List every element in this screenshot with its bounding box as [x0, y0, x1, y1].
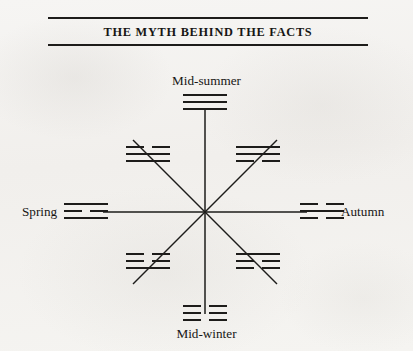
line-segment-full [126, 160, 170, 162]
trigram-line-broken [236, 260, 280, 262]
trigram-line-solid [236, 253, 280, 255]
line-segment-half [183, 312, 201, 314]
line-segment-full [126, 267, 170, 269]
line-segment-half [126, 146, 144, 148]
trigram-top [183, 94, 227, 110]
trigram-line-broken [126, 253, 170, 255]
line-segment-half [236, 267, 254, 269]
line-segment-half [209, 305, 227, 307]
trigram-line-broken [183, 312, 227, 314]
line-segment-full [183, 101, 227, 103]
trigram-line-solid [183, 108, 227, 110]
trigram-line-solid [236, 153, 280, 155]
trigram-line-broken [300, 217, 344, 219]
label-autumn: Autumn [341, 205, 384, 218]
trigram-left [64, 203, 108, 219]
trigram-line-solid [183, 101, 227, 103]
trigram-line-solid [64, 203, 108, 205]
line-segment-half [236, 160, 254, 162]
line-segment-full [236, 153, 280, 155]
line-segment-half [126, 253, 144, 255]
trigram-line-broken [183, 319, 227, 321]
trigram-line-solid [64, 217, 108, 219]
line-segment-full [300, 210, 344, 212]
label-mid-summer: Mid-summer [0, 74, 413, 87]
trigram-top-right [236, 146, 280, 162]
trigram-bottom [183, 305, 227, 321]
line-segment-half [183, 305, 201, 307]
line-segment-half [209, 319, 227, 321]
trigram-line-solid [300, 210, 344, 212]
line-segment-half [209, 312, 227, 314]
trigram-line-solid [236, 146, 280, 148]
label-spring: Spring [22, 205, 57, 218]
seasonal-wheel-diagram: Mid-summer Mid-winter Spring Autumn [0, 0, 413, 351]
trigram-line-broken [236, 267, 280, 269]
line-segment-half [152, 260, 170, 262]
line-segment-half [262, 260, 280, 262]
trigram-bottom-right [236, 253, 280, 269]
trigram-line-broken [126, 260, 170, 262]
line-segment-half [262, 267, 280, 269]
line-segment-half [236, 260, 254, 262]
line-segment-half [90, 210, 108, 212]
trigram-line-solid [183, 94, 227, 96]
line-segment-half [300, 217, 318, 219]
line-segment-half [262, 160, 280, 162]
line-segment-full [183, 94, 227, 96]
line-segment-full [183, 108, 227, 110]
line-segment-half [126, 260, 144, 262]
trigram-line-solid [126, 160, 170, 162]
trigram-bottom-left [126, 253, 170, 269]
line-segment-half [183, 319, 201, 321]
trigram-top-left [126, 146, 170, 162]
trigram-line-broken [183, 305, 227, 307]
line-segment-full [64, 203, 108, 205]
line-segment-full [64, 217, 108, 219]
trigram-line-broken [64, 210, 108, 212]
line-segment-full [236, 146, 280, 148]
trigram-line-broken [236, 160, 280, 162]
trigram-line-solid [126, 153, 170, 155]
trigram-line-solid [126, 267, 170, 269]
line-segment-half [152, 253, 170, 255]
line-segment-half [326, 217, 344, 219]
wheel-spokes [0, 0, 413, 351]
line-segment-half [300, 203, 318, 205]
line-segment-half [152, 146, 170, 148]
trigram-line-broken [300, 203, 344, 205]
line-segment-half [64, 210, 82, 212]
line-segment-half [326, 203, 344, 205]
trigram-line-broken [126, 146, 170, 148]
line-segment-full [236, 253, 280, 255]
label-mid-winter: Mid-winter [0, 327, 413, 340]
trigram-right [300, 203, 344, 219]
line-segment-full [126, 153, 170, 155]
